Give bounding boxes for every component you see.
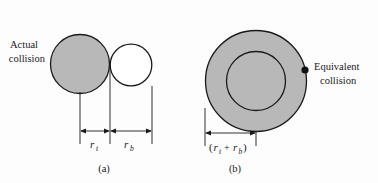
rb-symbol: r [124,138,129,150]
target-circle-filled [51,35,110,94]
dimension-arrow-rt [80,129,110,134]
rt-subscript-b: t [219,147,222,156]
collision-point-dot [301,66,308,73]
collision-diagram: r t r b Actual collision (a) [0,0,378,183]
actual-collision-line2: collision [9,53,46,64]
caption-b: (b) [229,163,242,175]
bullet-circle-open [110,44,152,86]
dimension-label-rt-plus-rb: ( r t + r b ) [209,141,247,156]
close-paren: ) [243,141,247,154]
actual-collision-line1: Actual [10,39,38,50]
open-paren: ( [209,141,213,154]
dimension-arrow-rb [110,129,152,134]
plus-operator: + [224,142,230,153]
dimension-label-rb: r b [124,138,134,153]
rb-subscript: b [130,144,134,153]
figure-container: r t r b Actual collision (a) [0,0,378,183]
equivalent-collision-label: Equivalent collision [314,61,360,86]
actual-collision-label: Actual collision [9,39,46,64]
equivalent-collision-line2: collision [320,75,357,86]
caption-a: (a) [98,163,110,175]
panel-a: r t r b Actual collision (a) [9,35,152,176]
rt-symbol-b: r [214,141,219,153]
equivalent-collision-line1: Equivalent [314,61,360,72]
rb-symbol-b: r [233,141,238,153]
dimension-label-rt: r t [90,138,99,153]
rt-symbol: r [90,138,95,150]
rb-subscript-b: b [239,147,243,156]
rt-subscript: t [96,144,99,153]
equivalent-circle-inner [227,52,286,111]
panel-b: ( r t + r b ) Equivalent collision (b) [205,31,360,176]
